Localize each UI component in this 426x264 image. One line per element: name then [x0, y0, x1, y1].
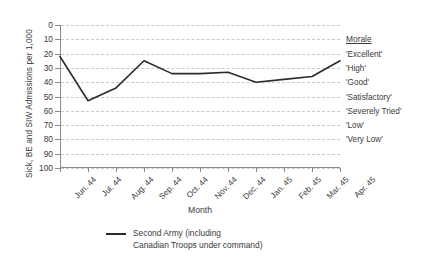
x-tick-mark — [60, 168, 61, 172]
x-tick-mark — [144, 168, 145, 172]
y-axis-title: Sick, BE and SIW Admissions per 1,000 — [25, 19, 34, 189]
x-tick-mark — [228, 168, 229, 172]
x-tick-label: Apr. 45 — [353, 175, 378, 200]
y-tick-label: 90 — [44, 149, 53, 159]
morale-level-label: 'Severely Tried' — [346, 106, 401, 115]
x-tick-label: Jun. 44 — [73, 175, 98, 200]
y-tick-label: 100 — [39, 163, 53, 173]
morale-level-label: 'Low' — [346, 121, 364, 130]
legend-line-swatch — [106, 233, 126, 235]
morale-scale: Morale 'Excellent''High''Good''Satisfact… — [346, 25, 426, 168]
morale-title: Morale — [346, 34, 372, 44]
y-tick-label: 50 — [44, 92, 53, 102]
x-tick-mark — [256, 168, 257, 172]
plot-area: 0102030405060708090100 Jun. 44Jul. 44Aug… — [60, 25, 340, 168]
x-tick-label: Oct. 44 — [185, 175, 210, 200]
y-tick-label: 70 — [44, 120, 53, 130]
x-tick-mark — [340, 168, 341, 172]
x-tick-label: Jan. 45 — [269, 175, 294, 200]
morale-level-label: 'Very Low' — [346, 135, 383, 144]
y-tick-label: 60 — [44, 106, 53, 116]
x-tick-mark — [116, 168, 117, 172]
y-tick-label: 80 — [44, 134, 53, 144]
x-tick-mark — [88, 168, 89, 172]
x-tick-label: Dec. 44 — [241, 175, 267, 201]
x-tick-label: Jul. 44 — [100, 175, 123, 198]
y-tick-label: 20 — [44, 49, 53, 59]
x-tick-label: Feb. 45 — [297, 175, 323, 201]
x-tick-mark — [200, 168, 201, 172]
x-tick-label: Sep. 44 — [157, 175, 183, 201]
x-tick-label: Nov. 44 — [213, 175, 239, 201]
y-tick-label: 40 — [44, 77, 53, 87]
x-tick-label: Aug. 44 — [129, 175, 155, 201]
series-polyline — [60, 56, 340, 100]
legend-label: Second Army (including Canadian Troops u… — [133, 228, 262, 251]
y-tick-label: 10 — [44, 34, 53, 44]
morale-level-label: 'Good' — [346, 78, 369, 87]
y-tick-label: 0 — [48, 20, 53, 30]
x-tick-mark — [284, 168, 285, 172]
x-tick-mark — [312, 168, 313, 172]
x-axis-title: Month — [60, 205, 340, 215]
chart-figure: Sick, BE and SIW Admissions per 1,000 01… — [0, 0, 426, 264]
legend: Second Army (including Canadian Troops u… — [106, 228, 262, 251]
x-tick-mark — [172, 168, 173, 172]
y-tick-label: 30 — [44, 63, 53, 73]
morale-level-label: 'High' — [346, 63, 366, 72]
data-series-line — [60, 25, 340, 168]
x-tick-label: Mar. 45 — [325, 175, 351, 201]
morale-level-label: 'Excellent' — [346, 49, 382, 58]
morale-level-label: 'Satisfactory' — [346, 92, 392, 101]
